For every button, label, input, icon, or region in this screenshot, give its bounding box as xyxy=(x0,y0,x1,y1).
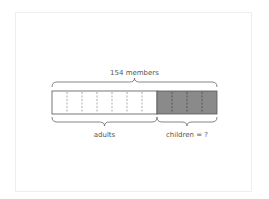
children-label: children = ? xyxy=(166,131,208,139)
children-brace xyxy=(157,117,217,126)
tape-diagram: 154 members adults children = ? xyxy=(0,0,269,199)
adults-label: adults xyxy=(94,131,116,139)
total-brace xyxy=(52,78,217,87)
total-label: 154 members xyxy=(110,69,159,77)
adults-segment xyxy=(52,91,157,114)
adults-brace xyxy=(52,117,157,126)
